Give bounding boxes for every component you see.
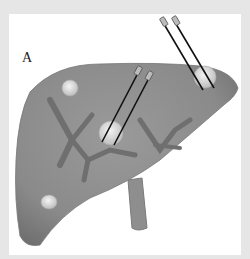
lesion-upper-left: [62, 80, 78, 96]
vessel-stem: [128, 178, 147, 230]
lesion-lower-left: [41, 195, 57, 209]
liver-illustration: [0, 0, 250, 259]
